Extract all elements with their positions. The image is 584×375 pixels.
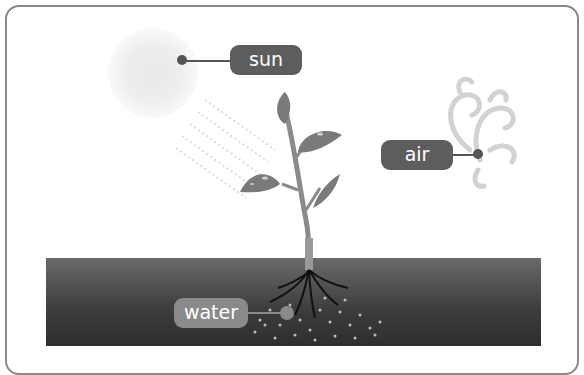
water-droplets-icon xyxy=(254,297,382,342)
sun-connector xyxy=(186,60,231,62)
air-pointer-dot xyxy=(473,149,483,159)
air-label: air xyxy=(381,140,453,170)
sun-label: sun xyxy=(230,45,302,75)
air-connector xyxy=(453,154,475,156)
stem-base xyxy=(305,238,313,270)
water-label: water xyxy=(174,298,248,328)
